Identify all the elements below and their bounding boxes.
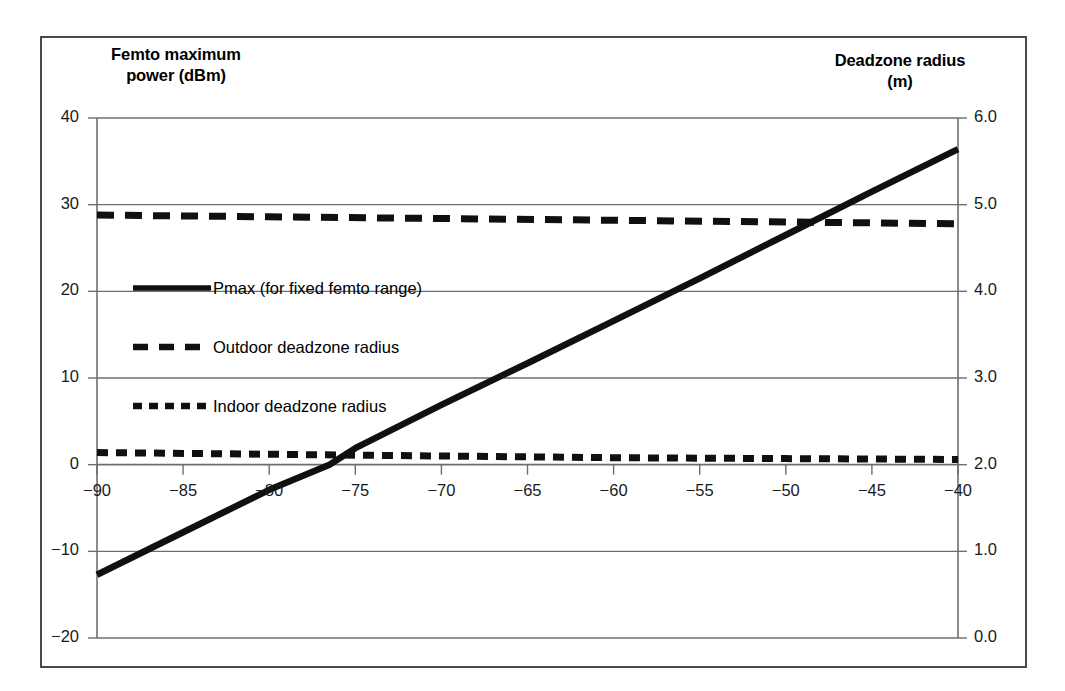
y-axis-right-tick-label: 0.0	[974, 627, 1024, 646]
x-axis-tick-label: −60	[588, 481, 640, 500]
x-axis-tick-label: −50	[760, 481, 812, 500]
x-axis-tick-label: −75	[329, 481, 381, 500]
legend-item-label: Outdoor deadzone radius	[213, 338, 399, 357]
y-axis-left-tick-label: 10	[33, 367, 79, 386]
y-axis-right-tick-label: 5.0	[974, 194, 1024, 213]
y-axis-right-tick-label: 2.0	[974, 454, 1024, 473]
x-axis-tick-label: −40	[932, 481, 984, 500]
legend-item-label: Indoor deadzone radius	[213, 397, 386, 416]
y-axis-left-tick-label: 30	[33, 194, 79, 213]
series-line	[97, 453, 958, 460]
x-axis-tick-label: −80	[243, 481, 295, 500]
y-axis-right-tick-label: 1.0	[974, 540, 1024, 559]
x-axis-tick-label: −65	[502, 481, 554, 500]
chart-figure: Femto maximum power (dBm) Deadzone radiu…	[0, 0, 1065, 691]
x-axis-tick-label: −90	[71, 481, 123, 500]
x-axis-tick-label: −55	[674, 481, 726, 500]
y-axis-right-tick-label: 4.0	[974, 280, 1024, 299]
series-line	[97, 149, 958, 575]
y-axis-left-tick-label: 40	[33, 107, 79, 126]
y-axis-left-tick-label: −20	[33, 627, 79, 646]
legend-item-label: Pmax (for fixed femto range)	[213, 279, 422, 298]
y-axis-right-tick-label: 3.0	[974, 367, 1024, 386]
x-axis-tick-label: −45	[846, 481, 898, 500]
y-axis-left-tick-label: −10	[33, 540, 79, 559]
x-axis-tick-label: −85	[157, 481, 209, 500]
plot-area	[0, 0, 1065, 691]
y-axis-right-tick-label: 6.0	[974, 107, 1024, 126]
y-axis-left-tick-label: 0	[33, 454, 79, 473]
x-axis-tick-label: −70	[415, 481, 467, 500]
y-axis-left-tick-label: 20	[33, 280, 79, 299]
